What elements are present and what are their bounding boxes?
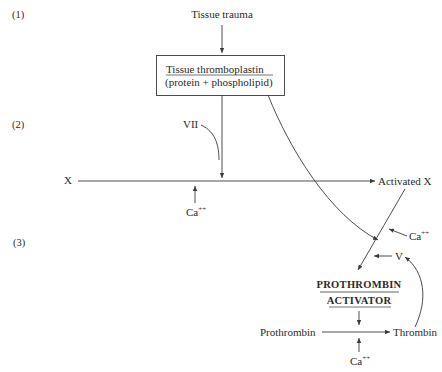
prothrombin-activator-line2: ACTIVATOR xyxy=(327,295,392,306)
thromboplastin-phospholipid-curve xyxy=(268,95,378,240)
thrombin-feedback-curve xyxy=(405,257,423,327)
calcium-2-label: Ca++ xyxy=(409,229,429,242)
prothrombin-label: Prothrombin xyxy=(260,326,316,338)
thromboplastin-subtitle: (protein + phospholipid) xyxy=(165,76,273,89)
factor-x-label: X xyxy=(64,174,72,186)
factor-v-label: V xyxy=(395,250,403,262)
thrombin-label: Thrombin xyxy=(393,326,437,338)
calcium-1-label: Ca++ xyxy=(186,205,206,218)
stage-label-2: (2) xyxy=(12,119,25,131)
stage-label-1: (1) xyxy=(12,9,25,21)
factor-vii-label: VII xyxy=(183,118,199,130)
tissue-trauma-label: Tissue trauma xyxy=(191,8,253,20)
calcium-2-arrow xyxy=(389,229,407,236)
prothrombin-activator-line1: PROTHROMBIN xyxy=(317,279,402,290)
factor-vii-curve xyxy=(201,125,219,160)
coagulation-diagram: (1) (2) (3) Tissue trauma Tissue thrombo… xyxy=(0,0,442,372)
thromboplastin-title: Tissue thromboplastin xyxy=(166,63,264,75)
stage-label-3: (3) xyxy=(13,237,26,249)
calcium-3-label: Ca++ xyxy=(350,354,370,367)
activated-x-label: Activated X xyxy=(378,175,432,187)
